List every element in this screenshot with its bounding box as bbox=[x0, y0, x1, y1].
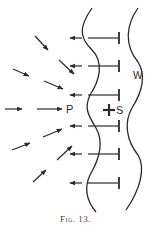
wavefront-diagram bbox=[0, 0, 151, 233]
source-s-label: S bbox=[116, 104, 123, 116]
wall-w-label: W bbox=[133, 70, 142, 81]
outer-wavefront-w bbox=[126, 8, 142, 210]
figure-caption: Fig. 13. bbox=[0, 214, 151, 224]
source-cross-icon bbox=[103, 104, 115, 116]
point-p-label: P bbox=[66, 103, 73, 115]
incident-arrows bbox=[5, 36, 74, 182]
